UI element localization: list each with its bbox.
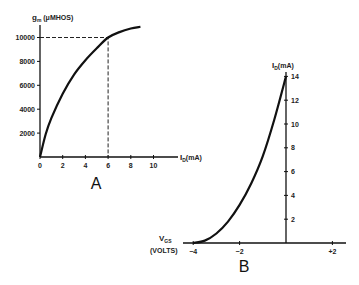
y-tick-label: 10: [291, 121, 299, 128]
y-tick-label: 8: [291, 144, 295, 151]
chart-a: 200040006000800010000 0246810 gm (μMHOS)…: [16, 13, 202, 192]
y-tick-label: 6000: [19, 82, 35, 89]
chart-a-curve: [40, 27, 140, 157]
x-tick-label: +2: [328, 248, 336, 255]
y-tick-label: 14: [291, 73, 299, 80]
chart-b-x-unit: (VOLTS): [150, 247, 177, 255]
x-tick-label: 2: [61, 162, 65, 169]
chart-a-y-label: gm (μMHOS): [32, 13, 73, 23]
chart-a-dashed-guide: [40, 38, 108, 158]
chart-a-x-label: ID(mA): [180, 153, 202, 163]
chart-a-y-ticks: 200040006000800010000: [16, 34, 40, 137]
panel-label-b: B: [239, 258, 250, 275]
y-tick-label: 10000: [16, 34, 36, 41]
x-tick-label: 6: [106, 162, 110, 169]
x-tick-label: 8: [129, 162, 133, 169]
x-tick-label: 4: [83, 162, 87, 169]
y-tick-label: 8000: [19, 58, 35, 65]
transconductance-figure: 200040006000800010000 0246810 gm (μMHOS)…: [0, 0, 359, 285]
y-tick-label: 2000: [19, 130, 35, 137]
y-tick-label: 12: [291, 97, 299, 104]
panel-label-a: A: [91, 175, 102, 192]
x-tick-label: 10: [150, 162, 158, 169]
x-tick-label: 0: [38, 162, 42, 169]
y-tick-label: 4: [291, 192, 295, 199]
x-tick-label: −4: [189, 248, 197, 255]
chart-b-curve: [193, 76, 286, 243]
x-tick-label: −2: [236, 248, 244, 255]
y-tick-label: 2: [291, 216, 295, 223]
y-tick-label: 6: [291, 168, 295, 175]
chart-b-x-label: VGS: [159, 234, 172, 244]
chart-b: 2468101214 −4−2+2 ID(mA) VGS (VOLTS) B: [150, 61, 346, 275]
y-tick-label: 4000: [19, 106, 35, 113]
chart-b-y-label: ID(mA): [272, 61, 294, 71]
